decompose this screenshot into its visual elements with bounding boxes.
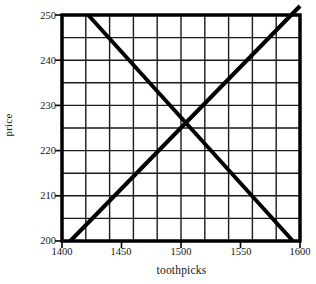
x-axis-title: toothpicks (62, 264, 301, 276)
x-tick-label: 1550 (219, 247, 263, 258)
y-tick-label: 240 (22, 56, 56, 67)
x-tick-label: 1600 (278, 247, 316, 258)
x-tick-label: 1500 (159, 247, 203, 258)
x-tick-label: 1400 (40, 247, 84, 258)
x-tick-label: 1450 (99, 247, 143, 258)
x-axis-tick-labels: 1400 1450 1500 1550 1600 (0, 247, 316, 263)
y-axis-title: price (2, 101, 14, 149)
y-axis-tick-labels: 250 240 230 220 210 200 (22, 0, 56, 284)
y-tick-label: 200 (22, 236, 56, 247)
y-tick-label: 210 (22, 191, 56, 202)
y-tick-label: 250 (22, 11, 56, 22)
y-tick-label: 230 (22, 101, 56, 112)
supply-demand-chart: price 250 240 230 220 210 200 1400 1450 … (0, 0, 316, 284)
y-tick-label: 220 (22, 146, 56, 157)
